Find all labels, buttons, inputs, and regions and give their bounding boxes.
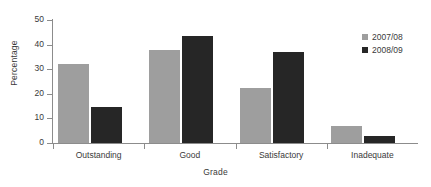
legend-label: 2007/08 — [372, 33, 403, 42]
y-tick-mark — [47, 45, 52, 46]
x-axis-title: Grade — [0, 167, 431, 177]
y-tick-mark — [47, 143, 52, 144]
bar-2008-09-good — [182, 36, 213, 143]
x-tick-label-inadequate: Inadequate — [327, 150, 418, 160]
x-tick-label-good: Good — [144, 150, 235, 160]
legend-label: 2008/09 — [372, 46, 403, 55]
y-tick-mark — [47, 69, 52, 70]
y-tick-label: 20 — [20, 88, 44, 98]
bar-2007-08-good — [149, 50, 180, 143]
legend-swatch-2008-09 — [362, 47, 368, 53]
bar-2008-09-satisfactory — [273, 52, 304, 143]
y-axis-title: Percentage — [9, 18, 19, 108]
x-tick-mark — [236, 144, 237, 149]
legend-item-2008-09: 2008/09 — [362, 44, 428, 56]
x-tick-label-outstanding: Outstanding — [53, 150, 144, 160]
legend-item-2007-08: 2007/08 — [362, 31, 428, 43]
chart-legend: 2007/082008/09 — [362, 31, 428, 57]
x-tick-label-satisfactory: Satisfactory — [236, 150, 327, 160]
x-tick-mark — [53, 144, 54, 149]
bar-2008-09-inadequate — [364, 136, 395, 143]
x-tick-mark — [327, 144, 328, 149]
y-tick-mark — [47, 94, 52, 95]
y-tick-label: 30 — [20, 63, 44, 73]
bar-2008-09-outstanding — [91, 107, 122, 143]
bar-2007-08-satisfactory — [240, 88, 271, 143]
bar-2007-08-outstanding — [58, 64, 89, 143]
y-tick-label: 0 — [20, 137, 44, 147]
legend-swatch-2007-08 — [362, 34, 368, 40]
bar-chart: Percentage 01020304050 OutstandingGoodSa… — [0, 0, 431, 187]
bar-2007-08-inadequate — [331, 126, 362, 143]
y-tick-mark — [47, 20, 52, 21]
y-tick-label: 40 — [20, 39, 44, 49]
y-tick-label: 50 — [20, 14, 44, 24]
y-tick-label: 10 — [20, 112, 44, 122]
y-tick-mark — [47, 118, 52, 119]
x-tick-mark — [144, 144, 145, 149]
